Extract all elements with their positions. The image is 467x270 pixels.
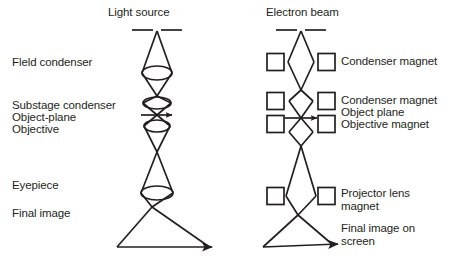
beam-crossover-to-condenser-2 xyxy=(289,90,313,101)
condenser-magnet-1-box-left xyxy=(267,54,284,71)
beam-exit-pupil-to-final-image xyxy=(117,207,208,247)
objective-magnet-label: Objective magnet xyxy=(341,118,429,132)
beam-exit-crossover-to-screen xyxy=(263,215,333,247)
electron-beam-label: Electron beam xyxy=(266,6,339,20)
projector-lens-magnet-box-left xyxy=(267,188,284,205)
beam-field-condenser-to-crossover xyxy=(142,73,172,96)
final-image-screen-arrow xyxy=(263,244,338,247)
eyepiece-label: Eyepiece xyxy=(12,179,59,193)
light-source-label: Light source xyxy=(108,6,169,20)
final-image-screen-label-line2: screen xyxy=(341,235,375,249)
objective-lens xyxy=(144,120,170,132)
condenser-magnet-1-label: Condenser magnet xyxy=(341,55,437,69)
beam-intermediate-image-to-projector xyxy=(286,146,316,196)
final-image-label-left: Final image xyxy=(12,207,70,221)
field-condenser-lens xyxy=(142,66,172,80)
ray-diagram-figure: Light source Fleld condenser Substage co… xyxy=(0,0,467,270)
beam-object-plane-to-objective-magnet xyxy=(289,118,313,132)
condenser-magnet-1-box-right xyxy=(318,54,335,71)
objective-magnet-box-left xyxy=(267,116,284,133)
projector-lens-magnet-label-line2: magnet xyxy=(341,200,379,214)
field-condenser-label: Fleld condenser xyxy=(12,56,92,70)
projector-lens-magnet-label-line1: Projector lens xyxy=(341,187,410,201)
condenser-magnet-2-box-right xyxy=(318,93,335,110)
beam-source-to-condenser-1 xyxy=(288,31,314,62)
beam-condenser-2-to-object-plane xyxy=(289,101,313,118)
projector-lens-magnet-box-right xyxy=(318,188,335,205)
electron-microscope-panel xyxy=(263,30,338,247)
beam-objective-to-intermediate-image xyxy=(289,132,313,146)
condenser-magnet-2-box-left xyxy=(267,93,284,110)
final-image-screen-label-line1: Final image on xyxy=(341,222,415,236)
beam-condenser-1-to-crossover xyxy=(288,62,314,90)
beam-projector-to-exit-crossover xyxy=(286,196,316,215)
optical-microscope-panel xyxy=(117,30,212,247)
objective-label: Objective xyxy=(12,123,59,137)
objective-magnet-box-right xyxy=(318,116,335,133)
